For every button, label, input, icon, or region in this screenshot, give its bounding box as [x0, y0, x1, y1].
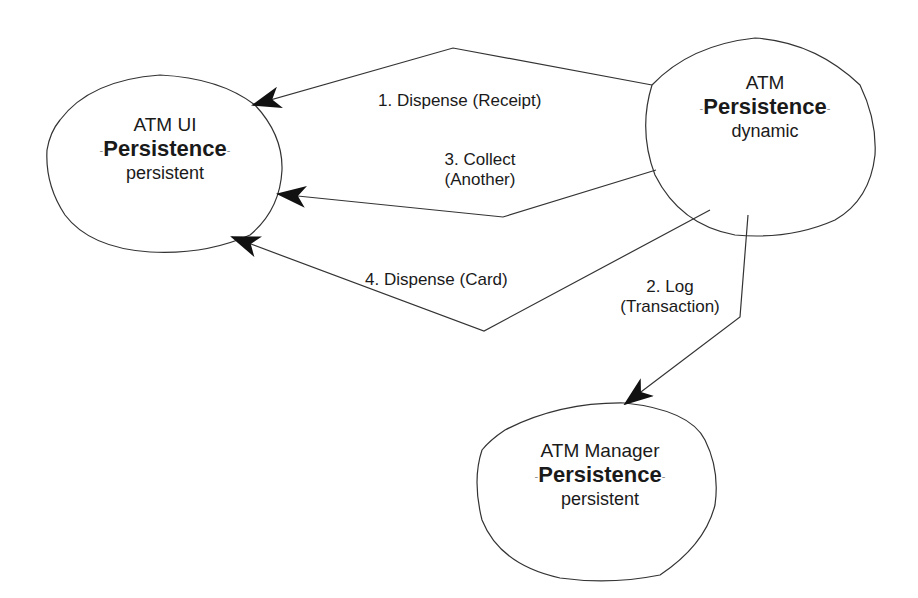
atm-manager-node[interactable]: ATM Manager -Persistence- persistent	[495, 440, 705, 510]
message-4-label: 4. Dispense (Card)	[365, 270, 508, 290]
node-kind: dynamic	[665, 121, 865, 142]
message-2-label: 2. Log (Transaction)	[600, 277, 740, 318]
message-3-label: 3. Collect (Another)	[410, 150, 550, 191]
atm-node[interactable]: ATM -Persistence- dynamic	[665, 72, 865, 142]
node-stereotype: -Persistence-	[665, 94, 865, 119]
node-name: ATM	[665, 72, 865, 94]
atm-ui-node[interactable]: ATM UI -Persistence- persistent	[70, 114, 260, 184]
node-stereotype: -Persistence-	[495, 462, 705, 487]
node-stereotype: -Persistence-	[70, 136, 260, 161]
node-name: ATM UI	[70, 114, 260, 136]
node-kind: persistent	[495, 489, 705, 510]
node-kind: persistent	[70, 163, 260, 184]
node-name: ATM Manager	[495, 440, 705, 462]
message-1-label: 1. Dispense (Receipt)	[378, 91, 541, 111]
